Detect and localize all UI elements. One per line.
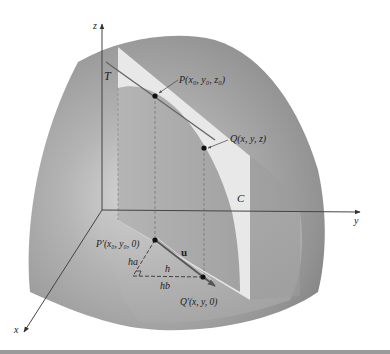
point-q-prime bbox=[200, 274, 205, 279]
hypotenuse-label: h bbox=[165, 263, 170, 274]
point-p-prime-label: P′(x₀, y₀, 0) bbox=[95, 239, 140, 250]
leg-ha-label: ha bbox=[128, 256, 138, 267]
bottom-border bbox=[0, 350, 390, 354]
point-q-label: Q(x, y, z) bbox=[230, 133, 267, 145]
leg-hb-label: hb bbox=[160, 280, 170, 291]
directional-derivative-diagram: z y x T C P(x₀, y₀, z₀) Q(x, y, z) P′(x₀… bbox=[0, 0, 390, 354]
point-p-prime bbox=[152, 237, 157, 242]
point-p-label: P(x₀, y₀, z₀) bbox=[178, 74, 226, 86]
y-axis-label: y bbox=[353, 215, 359, 226]
curve-label: C bbox=[237, 192, 245, 204]
x-axis-label: x bbox=[13, 324, 19, 335]
z-axis-label: z bbox=[92, 20, 97, 31]
unit-vector-label: u bbox=[181, 246, 187, 258]
point-p bbox=[152, 93, 157, 98]
point-q-prime-label: Q′(x, y, 0) bbox=[180, 297, 217, 308]
point-q bbox=[201, 145, 206, 150]
